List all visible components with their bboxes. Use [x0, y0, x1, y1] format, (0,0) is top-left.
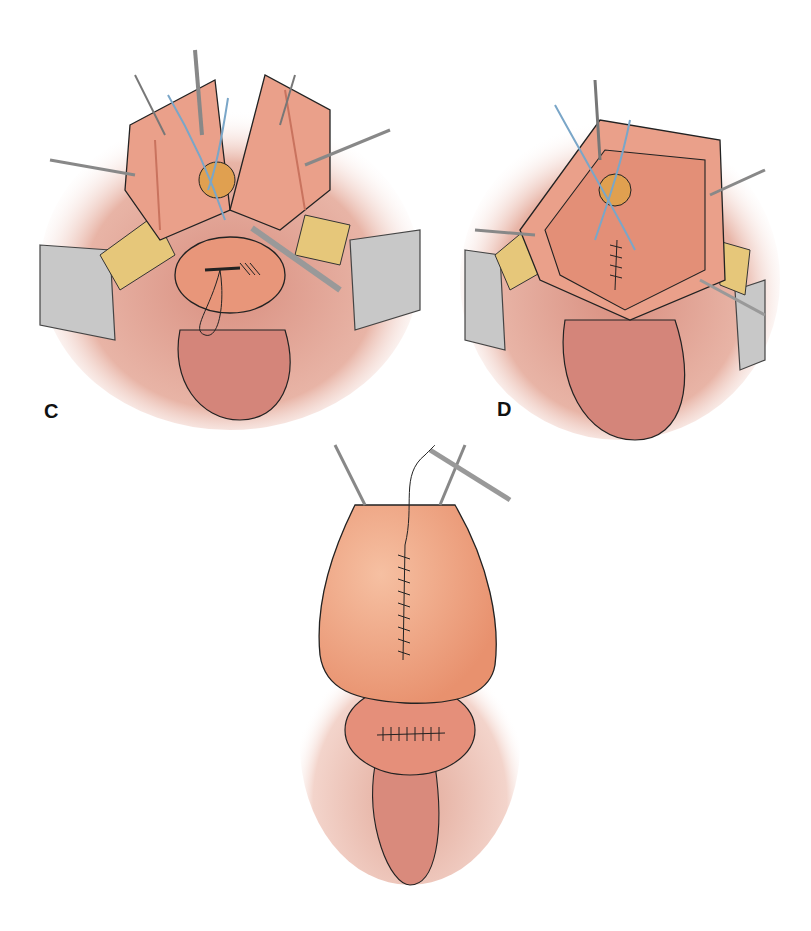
panel-d: [465, 80, 775, 440]
right-forceps: [440, 445, 465, 505]
panel-c: [40, 50, 420, 420]
panel-c-illustration: [40, 50, 420, 420]
needle-holder: [430, 450, 510, 500]
panel-d-illustration: [465, 80, 775, 440]
left-forceps: [335, 445, 365, 505]
panel-e: [295, 445, 525, 890]
panel-e-illustration: [295, 445, 525, 890]
bladder-neck: [175, 237, 285, 313]
panel-d-label: D: [497, 398, 511, 421]
panel-c-label: C: [44, 400, 58, 423]
closed-bladder: [319, 505, 496, 703]
right-retractor: [735, 280, 765, 370]
incision: [205, 268, 240, 270]
